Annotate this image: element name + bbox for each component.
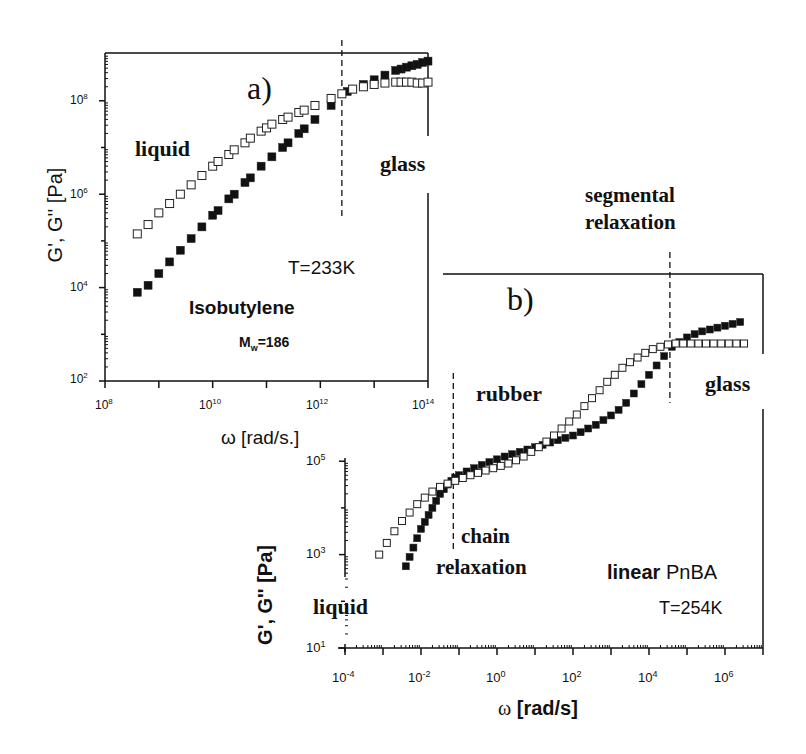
data-point-loss-modulus: [551, 432, 558, 439]
data-point-storage-modulus: [418, 525, 425, 532]
data-point-loss-modulus: [520, 453, 527, 460]
panel-b-xtick-label: 106: [714, 670, 733, 684]
data-point-loss-modulus: [414, 501, 421, 508]
data-point-storage-modulus: [570, 432, 577, 439]
data-point-storage-modulus: [402, 563, 409, 570]
panel-b-xtick-label: 102: [562, 670, 581, 684]
data-point-loss-modulus: [166, 200, 174, 208]
data-point-storage-modulus: [421, 518, 428, 525]
panel-b-label: b): [507, 283, 534, 315]
data-point-loss-modulus: [383, 539, 390, 546]
data-point-storage-modulus: [176, 246, 184, 254]
data-point-storage-modulus: [577, 429, 584, 436]
data-point-loss-modulus: [437, 483, 444, 490]
data-point-loss-modulus: [505, 460, 512, 467]
data-point-loss-modulus: [573, 411, 580, 418]
data-point-storage-modulus: [661, 353, 668, 360]
panel-b-ytick-label: 103: [306, 546, 325, 560]
panel-b-xtick-label: 10-4: [332, 670, 354, 684]
material-prefix: linear: [607, 561, 660, 583]
data-point-loss-modulus: [649, 346, 656, 353]
panel-b-ytick-label: 101: [306, 640, 325, 654]
data-point-loss-modulus: [359, 83, 367, 91]
data-point-loss-modulus: [672, 340, 679, 347]
data-point-loss-modulus: [268, 120, 276, 128]
data-point-storage-modulus: [198, 223, 206, 231]
data-point-loss-modulus: [421, 494, 428, 501]
data-point-storage-modulus: [230, 190, 238, 198]
data-point-storage-modulus: [425, 511, 432, 518]
data-point-loss-modulus: [718, 340, 725, 347]
panel-a-annotation-glass: glass: [380, 153, 425, 175]
panel-b-xtick-label: 10-2: [408, 670, 430, 684]
panel-b-xtick-label: 104: [638, 670, 657, 684]
chain-relaxation-line2: relaxation: [436, 557, 527, 578]
data-point-loss-modulus: [611, 371, 618, 378]
data-point-storage-modulus: [737, 319, 744, 326]
chain-relaxation-line1: chain: [461, 526, 510, 547]
panel-a-xtick-label: 1012: [306, 398, 328, 411]
data-point-loss-modulus: [311, 101, 319, 109]
data-point-loss-modulus: [424, 78, 432, 86]
panel-a-ytick-label: 104: [70, 280, 88, 293]
data-point-storage-modulus: [623, 399, 630, 406]
data-point-loss-modulus: [741, 340, 748, 347]
data-point-storage-modulus: [608, 412, 615, 419]
data-point-loss-modulus: [535, 444, 542, 451]
data-point-loss-modulus: [198, 172, 206, 180]
data-point-loss-modulus: [589, 395, 596, 402]
data-point-loss-modulus: [558, 425, 565, 432]
data-point-storage-modulus: [414, 535, 421, 542]
panel-a-annotation-liquid: liquid: [135, 138, 190, 160]
data-point-loss-modulus: [429, 488, 436, 495]
data-point-loss-modulus: [452, 477, 459, 484]
data-point-loss-modulus: [284, 113, 292, 121]
data-point-storage-modulus: [433, 497, 440, 504]
data-point-storage-modulus: [638, 381, 645, 388]
data-point-loss-modulus: [399, 517, 406, 524]
data-point-loss-modulus: [490, 465, 497, 472]
data-point-loss-modulus: [475, 469, 482, 476]
data-point-storage-modulus: [166, 258, 174, 266]
mw-value: =186: [258, 334, 290, 350]
data-point-loss-modulus: [376, 551, 383, 558]
data-point-storage-modulus: [300, 125, 308, 133]
panel-b-xtick-label: 100: [486, 670, 505, 684]
data-point-loss-modulus: [406, 509, 413, 516]
panel-b-y-axis-title: G', G'' [Pa]: [255, 520, 275, 670]
data-point-loss-modulus: [566, 418, 573, 425]
data-point-loss-modulus: [733, 340, 740, 347]
data-point-loss-modulus: [596, 387, 603, 394]
panel-a-material: Isobutylene: [189, 298, 295, 317]
chart-canvas: [0, 0, 806, 754]
data-point-loss-modulus: [703, 340, 710, 347]
material-name: PnBA: [666, 561, 717, 583]
panel-a-xtick-label: 1014: [412, 398, 434, 411]
panel-b-material: linear PnBA: [607, 562, 717, 582]
data-point-loss-modulus: [543, 438, 550, 445]
segmental-relaxation-line2: relaxation: [585, 212, 676, 233]
data-point-storage-modulus: [615, 406, 622, 413]
panel-b-plot: [338, 252, 763, 655]
data-point-loss-modulus: [230, 146, 238, 154]
panel-a-ytick-label: 102: [70, 372, 88, 385]
data-point-loss-modulus: [604, 378, 611, 385]
panel-a-xtick-label: 108: [95, 398, 113, 411]
data-point-loss-modulus: [725, 340, 732, 347]
data-point-storage-modulus: [144, 281, 152, 289]
panel-b-annotation-rubber: rubber: [476, 383, 542, 405]
data-point-storage-modulus: [410, 544, 417, 551]
data-point-loss-modulus: [528, 448, 535, 455]
data-point-loss-modulus: [497, 462, 504, 469]
data-point-loss-modulus: [187, 181, 195, 189]
panel-a-xtick-label: 1010: [199, 398, 221, 411]
panel-a-molecular-weight: Mw=186: [239, 335, 289, 353]
data-point-storage-modulus: [187, 235, 195, 243]
panel-b-annotation-glass: glass: [705, 373, 750, 395]
panel-b-temperature: T=254K: [659, 599, 723, 617]
data-point-storage-modulus: [406, 553, 413, 560]
mw-symbol: M: [239, 334, 251, 350]
data-point-loss-modulus: [459, 475, 466, 482]
data-point-loss-modulus: [391, 528, 398, 535]
data-point-storage-modulus: [714, 324, 721, 331]
